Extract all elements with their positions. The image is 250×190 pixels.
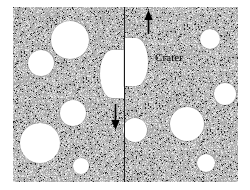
crater-left-center xyxy=(60,100,86,126)
crater-fault-figure: Crater xyxy=(0,0,250,190)
speckled-ground-surface xyxy=(13,7,238,182)
crater-right-mid-small xyxy=(214,83,236,105)
crater-left-mid xyxy=(28,50,54,76)
crater-lower-left-small xyxy=(73,158,89,174)
crater-fault-right-small xyxy=(123,118,147,142)
up-arrow xyxy=(142,10,155,34)
fault-line xyxy=(124,7,125,182)
crater-label: Crater xyxy=(155,51,183,63)
down-arrow xyxy=(109,104,122,130)
crater-upper-left-large xyxy=(51,21,89,59)
crater-right-upper-small xyxy=(200,29,220,49)
crater-right-center xyxy=(170,107,204,141)
offset-crater-right-half xyxy=(124,38,148,86)
offset-crater-left-half xyxy=(100,50,124,98)
crater-lower-right-small xyxy=(197,154,215,172)
crater-lower-left-large xyxy=(20,123,60,163)
